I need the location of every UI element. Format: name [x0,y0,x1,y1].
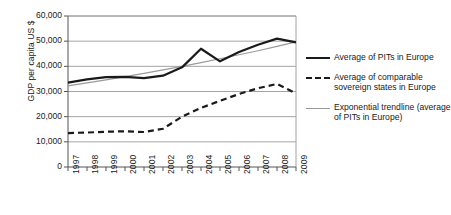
legend-entry: Average of comparable sovereign states i… [306,72,451,93]
gdp-per-capita-chart: GDP per capita US $ 010,00020,00030,0004… [0,0,451,215]
x-tick-label: 1997 [72,155,81,174]
x-tick-label: 1999 [110,155,119,174]
x-tick-label: 2000 [129,155,138,174]
x-tick-label: 2008 [281,155,290,174]
x-tick-label: 2001 [148,155,157,174]
legend-entry: Average of PITs in Europe [306,52,451,63]
legend-swatch-dashed-icon [306,77,330,79]
x-tick-label: 2003 [186,155,195,174]
chart-legend: Average of PITs in EuropeAverage of comp… [306,52,451,123]
x-tick-label: 1998 [91,155,100,174]
x-tick-label: 2007 [262,155,271,174]
legend-label: Exponential trendline (average of PITs i… [334,102,451,123]
x-tick-label: 2006 [243,155,252,174]
legend-swatch-thin-icon [306,108,330,109]
legend-label: Average of PITs in Europe [334,52,451,62]
x-tick-label: 2004 [205,155,214,174]
x-tick-label: 2005 [224,155,233,174]
legend-swatch-solid-icon [306,57,330,59]
x-tick-label: 2002 [167,155,176,174]
legend-label: Average of comparable sovereign states i… [334,72,451,93]
legend-entry: Exponential trendline (average of PITs i… [306,102,451,123]
x-tick-label: 2009 [300,155,309,174]
